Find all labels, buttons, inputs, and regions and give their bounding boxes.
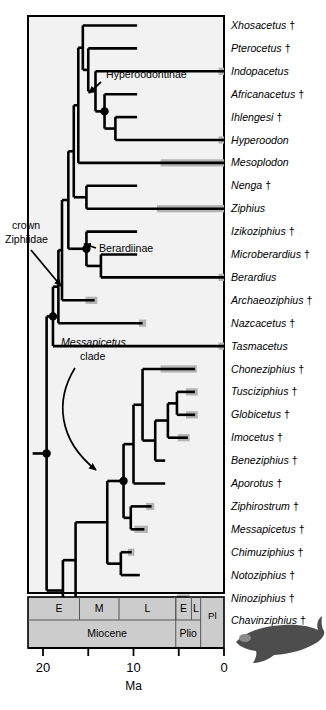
taxon-label-berardius: Berardius: [231, 271, 277, 283]
hyperoodontinae-node: [100, 107, 108, 115]
taxon-label-mesoplodon: Mesoplodon: [231, 156, 289, 168]
taxon-label-izikoziphius: Izikoziphius†: [231, 225, 295, 237]
taxon-label-imocetus: Imocetus†: [231, 431, 283, 443]
taxon-label-choneziphius: Choneziphius†: [231, 362, 304, 374]
taxon-label-microberardius: Microberardius†: [231, 248, 310, 260]
annotation-hyperoodontinae: Hyperoodontinae: [106, 68, 187, 80]
annotation-messapicetus-line1: Messapicetus: [61, 336, 126, 348]
annotation-berardiinae: Berardiinae: [99, 242, 153, 254]
epoch-label-plio: Plio: [179, 627, 197, 639]
taxon-label-ninoziphius: Ninoziphius†: [231, 591, 295, 603]
taxon-label-globicetus: Globicetus†: [231, 408, 290, 420]
stage-label-1: M: [95, 602, 104, 614]
taxon-label-ziphius: Ziphius: [230, 202, 266, 214]
taxon-label-tusciziphius: Tusciziphius†: [231, 385, 298, 397]
taxon-label-tasmacetus: Tasmacetus: [231, 339, 288, 351]
timescale: EMLELMiocenePlioPl: [28, 597, 224, 648]
axis-tick-label-0: 0: [220, 660, 227, 675]
axis-tick-label-10: 10: [126, 660, 140, 675]
taxon-label-beneziphius: Beneziphius†: [231, 454, 298, 466]
taxon-label-africanacetus: Africanacetus†: [230, 87, 304, 99]
axis-unit-label: Ma: [125, 679, 142, 693]
taxon-label-messapicetus: Messapicetus†: [231, 523, 305, 535]
epoch-label-miocene: Miocene: [87, 627, 127, 639]
taxon-label-indopacetus: Indopacetus: [231, 65, 289, 77]
time-axis: 20100Ma: [28, 648, 228, 693]
tree-svg: Xhosacetus†Pterocetus†IndopacetusAfrican…: [0, 0, 326, 710]
taxon-label-aporotus: Aporotus†: [230, 477, 282, 489]
taxon-label-chavinziphius: Chavinziphius†: [231, 614, 306, 626]
taxon-label-ziphirostrum: Ziphirostrum†: [230, 500, 299, 512]
taxon-label-archaeoziphius: Archaeoziphius†: [230, 294, 312, 306]
crown-ziphiidae-node: [49, 312, 57, 320]
annotation-messapicetus-line2: clade: [80, 350, 105, 362]
taxon-label-nazcacetus: Nazcacetus†: [231, 316, 295, 328]
annotation-crown-line2: Ziphiidae: [5, 233, 48, 245]
taxon-label-hyperoodon: Hyperoodon: [231, 133, 289, 145]
messapicetus-clade-node: [119, 477, 127, 485]
phylogenetic-tree-figure: Xhosacetus†Pterocetus†IndopacetusAfrican…: [0, 0, 326, 710]
taxon-label-pterocetus: Pterocetus†: [231, 42, 291, 54]
taxon-label-notoziphius: Notoziphius†: [231, 568, 295, 580]
annotation-crown-line1: crown: [12, 219, 40, 231]
root-node: [42, 449, 50, 457]
taxon-label-ihlengesi: Ihlengesi†: [231, 110, 282, 122]
stage-label-0: E: [55, 602, 62, 614]
whale-head-highlight: [239, 634, 251, 642]
axis-tick-label-20: 20: [36, 660, 50, 675]
taxon-label-xhosacetus: Xhosacetus†: [230, 19, 295, 31]
stage-label-3: E: [180, 602, 187, 614]
taxon-label-nenga: Nenga†: [231, 179, 271, 191]
stage-label-2: L: [144, 602, 150, 614]
taxon-labels: Xhosacetus†Pterocetus†IndopacetusAfrican…: [230, 19, 312, 626]
taxon-label-chimuziphius: Chimuziphius†: [231, 545, 304, 557]
epoch-label-pl: Pl: [208, 610, 216, 621]
stage-label-4: L: [193, 602, 199, 614]
